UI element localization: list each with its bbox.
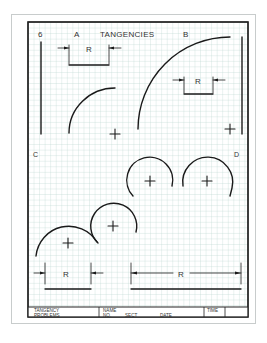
dimension-label-b: R (195, 77, 201, 86)
drawing-sheet: 6 A TANGENCIES B C D (0, 0, 267, 343)
sect-field-label: SECT (125, 313, 137, 318)
region-label-a: A (74, 30, 80, 39)
region-label-b: B (183, 30, 188, 39)
dimension-label-a: R (86, 45, 92, 54)
no-field-label: NO. (103, 313, 111, 318)
sheet-title: TANGENCIES (100, 30, 154, 39)
sheet-number: 6 (38, 30, 43, 39)
region-label-c: C (33, 151, 38, 158)
problem-name-line2: PROBLEMS (34, 313, 60, 318)
dimension-label-d: R (178, 270, 184, 279)
dimension-label-c: R (63, 270, 69, 279)
date-field-label: DATE (160, 313, 172, 318)
region-label-d: D (234, 151, 239, 158)
time-field-label: TIME (207, 308, 218, 313)
